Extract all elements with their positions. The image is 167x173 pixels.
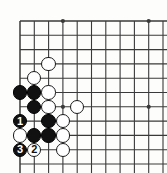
go-board-diagram: 132	[0, 0, 167, 173]
stone-white	[41, 100, 55, 114]
stone-white	[41, 85, 55, 99]
stone-black	[13, 85, 27, 99]
stone-white	[56, 143, 70, 157]
stone-white	[13, 128, 27, 142]
stone-number: 3	[17, 144, 23, 155]
stone-black	[27, 128, 41, 142]
stone-black	[41, 114, 55, 128]
stone-white	[41, 57, 55, 71]
star-point	[61, 105, 65, 109]
stone-black	[27, 85, 41, 99]
star-point	[147, 19, 151, 23]
star-point	[147, 105, 151, 109]
numbered-stone-3: 3	[13, 143, 27, 157]
star-point	[61, 19, 65, 23]
stone-white	[56, 128, 70, 142]
stone-number: 2	[31, 144, 37, 155]
stone-number: 1	[17, 115, 23, 126]
stone-black	[41, 128, 55, 142]
